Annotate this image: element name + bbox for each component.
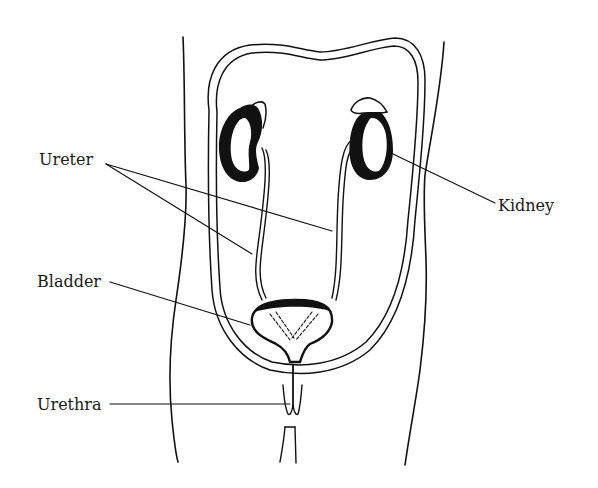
right-kidney [349,98,393,180]
body-outline [170,37,444,465]
left-kidney [219,102,266,182]
label-kidney: Kidney [498,198,554,214]
bladder [252,299,332,362]
label-bladder: Bladder [37,274,101,290]
kidney-leader [393,154,495,203]
ureter-leader-right [106,164,332,231]
label-urethra: Urethra [37,397,102,413]
urinary-system-diagram: Ureter Kidney Bladder Urethra [0,0,598,488]
ureter-leader-left [106,164,252,254]
bladder-leader [110,282,250,325]
label-leaders [106,154,495,404]
anatomy-drawing [0,0,598,488]
urethra [280,365,302,463]
label-ureter: Ureter [39,152,93,168]
